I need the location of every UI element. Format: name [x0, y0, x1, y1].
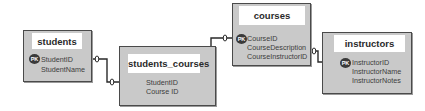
entity-courses[interactable]: courses PK CourseID CourseDescription Co… — [232, 3, 311, 66]
entity-instructors[interactable]: instructors PK InstructorID InstructorNa… — [322, 32, 412, 94]
field-course-description: CourseDescription — [247, 43, 306, 52]
field-instructor-name: InstructorName — [352, 67, 401, 76]
entity-students-courses[interactable]: students_courses StudentID Course ID — [119, 46, 216, 106]
entity-title: students — [32, 33, 82, 49]
primary-key-icon: PK — [29, 54, 40, 64]
field-course-id: CourseID — [247, 34, 277, 43]
cardinality-zero-marker — [110, 79, 114, 85]
entity-title: students_courses — [128, 54, 200, 73]
entity-title: courses — [239, 6, 305, 25]
primary-key-icon: PK — [340, 58, 351, 68]
cardinality-zero-marker — [312, 48, 316, 54]
field-instructor-id: InstructorID — [352, 58, 389, 67]
entity-title: instructors — [334, 35, 405, 52]
cardinality-zero-marker — [223, 35, 227, 41]
field-course-instructor-id: CourseInstructorID — [247, 52, 307, 61]
field-instructor-notes: InstructorNotes — [352, 76, 401, 85]
field-course-id: Course ID — [146, 87, 178, 96]
cardinality-zero-marker — [95, 56, 99, 62]
field-student-id: StudentID — [41, 55, 73, 64]
field-student-id: StudentID — [146, 78, 178, 87]
primary-key-icon: PK — [236, 34, 247, 44]
field-student-name: StudentName — [41, 65, 85, 74]
entity-students[interactable]: students PK StudentID StudentName — [23, 30, 92, 82]
